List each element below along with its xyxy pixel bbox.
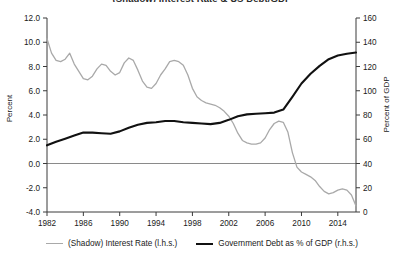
legend-label-interest-rate: (Shadow) Interest Rate (l.h.s.) <box>68 239 177 248</box>
svg-text:4.0: 4.0 <box>29 111 41 120</box>
svg-text:120: 120 <box>363 63 377 72</box>
svg-text:160: 160 <box>363 14 377 23</box>
svg-text:2006: 2006 <box>256 219 275 228</box>
svg-text:-4.0: -4.0 <box>26 208 41 217</box>
svg-text:60: 60 <box>363 135 373 144</box>
legend-swatch-debt-gdp <box>196 243 213 245</box>
svg-text:20: 20 <box>363 184 373 193</box>
svg-text:2010: 2010 <box>292 219 311 228</box>
svg-text:2002: 2002 <box>220 219 239 228</box>
chart-plot-area: -4.0-2.00.02.04.06.08.010.012.0020406080… <box>0 0 404 238</box>
svg-text:1994: 1994 <box>147 219 166 228</box>
axis-tick-labels: -4.0-2.00.02.04.06.08.010.012.0020406080… <box>24 14 377 228</box>
axis-ticks <box>43 18 360 216</box>
svg-text:1982: 1982 <box>38 219 57 228</box>
chart-figure: (Shadow) Interest Rate & US Debt/GDP -4.… <box>0 0 404 260</box>
y-axis-label-right: Percent of GDP <box>382 70 391 140</box>
svg-text:0.0: 0.0 <box>29 160 41 169</box>
y-axis-label-left: Percent <box>5 79 14 139</box>
svg-text:100: 100 <box>363 87 377 96</box>
data-series-lines <box>47 39 356 206</box>
legend-item-interest-rate: (Shadow) Interest Rate (l.h.s.) <box>46 239 177 248</box>
legend-item-debt-gdp: Government Debt as % of GDP (r.h.s.) <box>196 239 358 248</box>
svg-text:0: 0 <box>363 208 368 217</box>
chart-legend: (Shadow) Interest Rate (l.h.s.) Governme… <box>0 239 404 248</box>
svg-text:10.0: 10.0 <box>24 38 40 47</box>
svg-text:140: 140 <box>363 38 377 47</box>
svg-text:2.0: 2.0 <box>29 135 41 144</box>
svg-text:1986: 1986 <box>74 219 93 228</box>
legend-swatch-interest-rate <box>46 243 63 244</box>
svg-text:12.0: 12.0 <box>24 14 40 23</box>
svg-text:1998: 1998 <box>183 219 202 228</box>
svg-text:1990: 1990 <box>111 219 130 228</box>
svg-text:40: 40 <box>363 160 373 169</box>
svg-text:2014: 2014 <box>329 219 348 228</box>
svg-text:6.0: 6.0 <box>29 87 41 96</box>
legend-label-debt-gdp: Government Debt as % of GDP (r.h.s.) <box>218 239 358 248</box>
svg-text:8.0: 8.0 <box>29 63 41 72</box>
svg-text:-2.0: -2.0 <box>26 184 41 193</box>
axis-lines <box>47 18 356 212</box>
svg-text:80: 80 <box>363 111 373 120</box>
